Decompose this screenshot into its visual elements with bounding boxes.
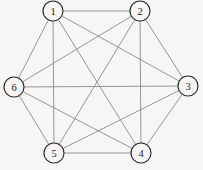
graph-node-3[interactable]: 3 <box>178 76 198 96</box>
graph-edge-4-6 <box>23 92 132 149</box>
node-label-6: 6 <box>11 82 16 93</box>
node-label-1: 1 <box>50 6 55 17</box>
graph-node-6[interactable]: 6 <box>4 77 24 97</box>
graph-node-5[interactable]: 5 <box>44 143 64 163</box>
graph-edge-1-5 <box>53 21 54 143</box>
graph-node-2[interactable]: 2 <box>130 1 150 21</box>
graph-edge-2-4 <box>140 21 141 143</box>
graph-canvas: 123456 <box>0 0 203 170</box>
graph-node-4[interactable]: 4 <box>131 143 151 163</box>
node-label-4: 4 <box>138 148 144 159</box>
edge-layer <box>19 11 183 153</box>
graph-figure: 123456 <box>0 0 203 170</box>
graph-edge-3-4 <box>147 94 183 145</box>
graph-edge-3-5 <box>63 90 179 148</box>
node-layer: 123456 <box>4 1 198 163</box>
graph-edge-3-6 <box>24 86 178 87</box>
graph-node-1[interactable]: 1 <box>43 1 63 21</box>
graph-edge-1-3 <box>62 16 180 81</box>
node-label-2: 2 <box>137 6 142 17</box>
graph-edge-2-5 <box>59 20 135 145</box>
graph-edge-2-3 <box>145 19 182 77</box>
node-label-3: 3 <box>185 81 190 92</box>
node-label-5: 5 <box>51 148 56 159</box>
